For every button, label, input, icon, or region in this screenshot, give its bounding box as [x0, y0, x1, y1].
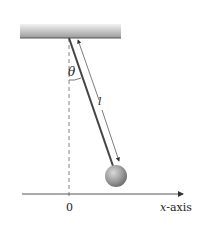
origin-label: 0	[66, 202, 73, 213]
length-dimension-arrow	[78, 40, 99, 100]
angle-label: θ	[68, 66, 75, 78]
pendulum-bob	[105, 165, 127, 187]
ceiling-support	[20, 24, 121, 38]
pendulum-diagram	[0, 0, 203, 228]
x-axis-label: x-axis	[160, 202, 192, 213]
length-dimension-arrow-lower	[102, 110, 119, 161]
pendulum-rod	[69, 38, 113, 166]
length-label: l	[98, 96, 102, 107]
x-axis-suffix: -axis	[166, 201, 192, 214]
